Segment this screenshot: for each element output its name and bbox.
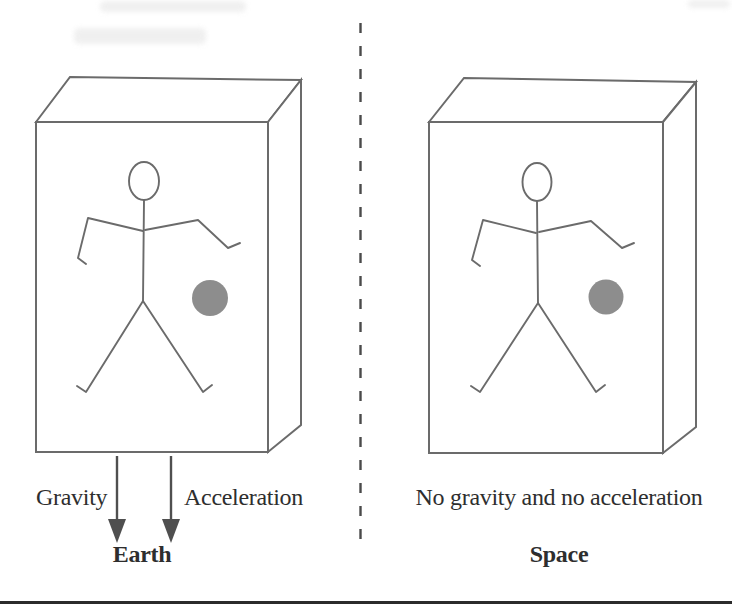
figure-head	[523, 163, 552, 201]
left-elevator-box	[36, 77, 301, 452]
box-side-face	[663, 82, 696, 453]
gravity-arrow	[108, 456, 126, 543]
no-gravity-label: No gravity and no acceleration	[416, 484, 703, 510]
box-side-face	[268, 80, 301, 452]
space-caption: Space	[530, 541, 589, 567]
box-top-face	[429, 78, 696, 122]
diagram-canvas	[0, 0, 732, 608]
acceleration-arrow-head	[162, 519, 180, 543]
box-top-face	[36, 77, 301, 122]
gravity-arrow-head	[108, 519, 126, 543]
equivalence-principle-figure: Gravity Acceleration Earth No gravity an…	[0, 0, 732, 608]
right-elevator-box	[429, 78, 696, 453]
figure-head	[129, 162, 159, 200]
acceleration-label: Acceleration	[184, 484, 303, 510]
earth-caption: Earth	[113, 541, 172, 567]
left-ball	[192, 280, 228, 316]
right-ball	[589, 280, 624, 315]
acceleration-arrow	[162, 456, 180, 543]
figure-body	[143, 200, 144, 301]
figure-body	[537, 201, 538, 303]
gravity-label: Gravity	[36, 484, 107, 510]
